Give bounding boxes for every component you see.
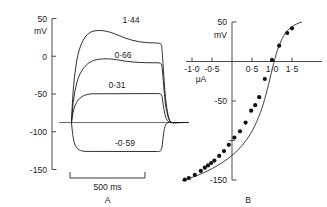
data-point <box>270 58 274 62</box>
panel-b-yaxis-unit: mV <box>214 30 227 40</box>
data-point <box>257 95 261 99</box>
data-point <box>193 173 197 177</box>
data-point <box>217 154 221 158</box>
data-point <box>249 109 253 113</box>
panel-a-trace-label-neg-0-59: -0·59 <box>115 138 135 148</box>
panel-a-trace-1-44 <box>72 30 189 122</box>
panel-b-ytick-label-neg50: -50 <box>215 96 228 106</box>
data-point <box>227 143 231 147</box>
data-point <box>187 176 191 180</box>
figure-container: 50 mV 0 -50 -100 -150 1·44 0·66 0·31 -0·… <box>0 0 327 207</box>
panel-b-xtick-label-neg0-5: -0·5 <box>204 64 220 74</box>
data-point <box>290 26 294 30</box>
panel-b-xtick-label-neg1: -1·0 <box>184 64 200 74</box>
panel-b-ytick-label-neg150: -150 <box>210 175 227 185</box>
panel-a-trace-label-0-31: 0·31 <box>108 80 125 90</box>
data-point <box>199 169 203 173</box>
panel-a-trace-0-31 <box>72 94 189 123</box>
panel-b-ytick-label-50: 50 <box>217 17 227 27</box>
data-point <box>285 31 289 35</box>
panel-b-fitted-curve <box>182 22 302 181</box>
panel-a-ytick-label-neg50: -50 <box>35 89 48 99</box>
panel-b-xtick-label-1-5: 1·5 <box>286 64 299 74</box>
panel-a-ytick-label-neg100: -100 <box>30 127 47 137</box>
panel-a-scale-bar-label: 500 ms <box>93 182 121 192</box>
panel-a-ytick-label-50: 50 <box>37 14 47 24</box>
data-point <box>222 149 226 153</box>
data-point <box>244 121 248 125</box>
panel-a-time-scale-bar <box>70 172 145 178</box>
data-point <box>253 103 257 107</box>
panel-a-letter: A <box>105 195 111 205</box>
panel-b-xaxis-unit: μA <box>196 74 207 84</box>
panel-a-trace-0-66 <box>72 59 189 123</box>
data-point <box>263 77 267 81</box>
panel-b-group: -1·0 -0·5 0·5 1·0 1·5 μA 50 mV -50 -150 <box>182 17 322 205</box>
panel-a-yaxis-unit: mV <box>34 26 47 36</box>
data-point <box>183 178 187 182</box>
panel-a-trace-label-1-44: 1·44 <box>122 15 139 25</box>
panel-a-ytick-label-neg150: -150 <box>30 165 47 175</box>
data-point <box>277 44 281 48</box>
data-point <box>232 136 236 140</box>
panel-a-ytick-label-0: 0 <box>42 52 47 62</box>
scientific-figure: 50 mV 0 -50 -100 -150 1·44 0·66 0·31 -0·… <box>0 0 327 207</box>
panel-a-trace-label-0-66: 0·66 <box>114 50 131 60</box>
data-point <box>238 129 242 133</box>
panel-b-xtick-label-0-5: 0·5 <box>246 64 259 74</box>
data-point <box>212 159 216 163</box>
panel-b-letter: B <box>245 195 251 205</box>
panel-a-group: 50 mV 0 -50 -100 -150 1·44 0·66 0·31 -0·… <box>30 14 188 206</box>
